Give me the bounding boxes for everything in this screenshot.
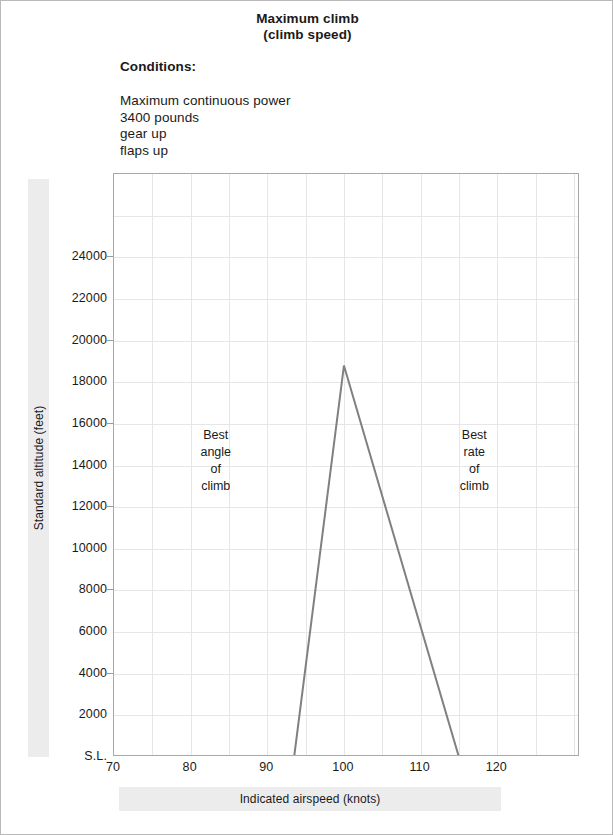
y-tick-label: 8000 — [47, 583, 107, 595]
annotation-line: Best — [200, 427, 231, 444]
title-line-2: (climb speed) — [1, 27, 613, 43]
condition-item: Maximum continuous power — [120, 93, 290, 110]
y-tick-label: 20000 — [47, 334, 107, 346]
annotation-best-angle-of-climb: Bestangleofclimb — [200, 427, 231, 495]
y-tick-mark — [107, 673, 113, 674]
conditions-list: Maximum continuous power3400 poundsgear … — [120, 93, 290, 159]
y-tick-mark — [107, 423, 113, 424]
title-line-1: Maximum climb — [1, 11, 613, 27]
y-tick-label: 14000 — [47, 459, 107, 471]
plot-area: BestangleofclimbBestrateofclimb — [113, 173, 579, 756]
y-tick-label: 22000 — [47, 292, 107, 304]
page-title: Maximum climb (climb speed) — [1, 11, 613, 43]
y-tick-label: 18000 — [47, 375, 107, 387]
annotation-best-rate-of-climb: Bestrateofclimb — [460, 427, 489, 495]
y-tick-mark — [107, 256, 113, 257]
curve-climb-speed — [294, 366, 459, 756]
condition-item: flaps up — [120, 143, 290, 160]
condition-item: gear up — [120, 126, 290, 143]
climb-speed-curve — [114, 174, 579, 756]
annotation-line: climb — [460, 478, 489, 495]
annotation-line: angle — [200, 444, 231, 461]
x-tick-label: 90 — [236, 760, 296, 774]
annotation-line: of — [460, 461, 489, 478]
x-axis-ticks: 708090100110120 — [113, 760, 579, 780]
annotation-line: rate — [460, 444, 489, 461]
x-tick-label: 120 — [466, 760, 526, 774]
annotation-line: of — [200, 461, 231, 478]
annotation-line: Best — [460, 427, 489, 444]
chart-page: Maximum climb (climb speed) Conditions: … — [0, 0, 613, 835]
condition-item: 3400 pounds — [120, 110, 290, 127]
x-tick-label: 110 — [390, 760, 450, 774]
y-tick-label: 16000 — [47, 417, 107, 429]
x-tick-label: 100 — [313, 760, 373, 774]
x-tick-label: 70 — [83, 760, 143, 774]
y-tick-mark — [107, 589, 113, 590]
y-tick-label: 12000 — [47, 500, 107, 512]
y-tick-label: 4000 — [47, 667, 107, 679]
y-tick-label: 10000 — [47, 542, 107, 554]
y-tick-label: 24000 — [47, 250, 107, 262]
y-axis-ticks: S.L.200040006000800010000120001400016000… — [41, 173, 107, 756]
y-tick-label: 6000 — [47, 625, 107, 637]
x-tick-label: 80 — [160, 760, 220, 774]
y-tick-label: 2000 — [47, 708, 107, 720]
conditions-heading: Conditions: — [120, 59, 196, 74]
x-axis-title: Indicated airspeed (knots) — [119, 787, 501, 811]
y-tick-mark — [107, 340, 113, 341]
annotation-line: climb — [200, 478, 231, 495]
y-tick-mark — [107, 506, 113, 507]
